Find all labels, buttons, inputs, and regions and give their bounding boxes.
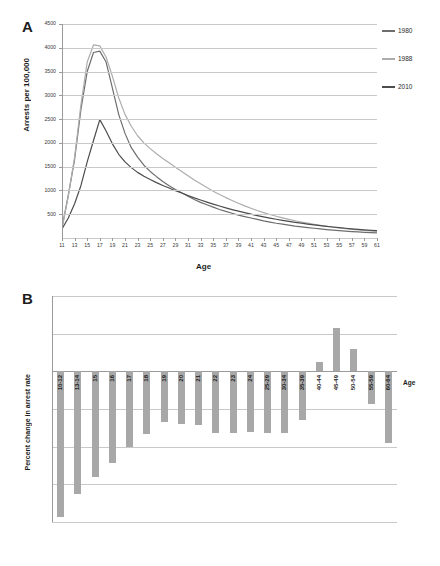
y-tick-mark — [59, 119, 62, 120]
y-tick-label: 4500 — [28, 21, 56, 26]
x-tick-mark — [150, 238, 151, 241]
bar-category-label: 25-29 — [264, 375, 270, 390]
y-tick-label: 3000 — [28, 93, 56, 98]
bar-category-label: 55-59 — [368, 375, 374, 390]
panel-a: A Arrests per 100,000 Age 50010001500200… — [0, 0, 440, 282]
bar-category-label: 23 — [230, 375, 236, 382]
bar-category-label: 19 — [161, 375, 167, 382]
gridline — [52, 296, 397, 297]
x-tick-mark — [377, 238, 378, 241]
x-tick-mark — [339, 238, 340, 241]
x-tick-mark — [289, 238, 290, 241]
x-tick-mark — [87, 238, 88, 241]
gridline — [52, 334, 397, 335]
x-tick-mark — [238, 238, 239, 241]
panel-b-plot-area: 10-1213-141516171819202122232425-2930-34… — [52, 296, 397, 522]
gridline — [62, 143, 377, 144]
bar-category-label: 30-34 — [281, 375, 287, 390]
legend-label: 1980 — [398, 28, 412, 35]
x-tick-mark — [327, 238, 328, 241]
x-tick-mark — [364, 238, 365, 241]
panel-b-y-axis-line — [52, 296, 53, 522]
bar-category-label: 17 — [126, 375, 132, 382]
x-tick-mark — [62, 238, 63, 241]
x-tick-mark — [175, 238, 176, 241]
y-tick-mark — [59, 48, 62, 49]
x-tick-mark — [301, 238, 302, 241]
panel-b-age-label: Age — [403, 379, 415, 386]
y-tick-mark — [59, 95, 62, 96]
y-tick-mark — [59, 143, 62, 144]
y-tick-label: 3500 — [28, 69, 56, 74]
panel-b-letter: B — [22, 290, 33, 307]
y-tick-label: 1000 — [28, 188, 56, 193]
gridline — [62, 238, 377, 239]
x-tick-mark — [112, 238, 113, 241]
panel-a-y-axis-line — [62, 24, 63, 238]
gridline — [52, 447, 397, 448]
bar-category-label: 10-12 — [57, 375, 63, 390]
panel-a-plot-area — [62, 24, 377, 238]
bar — [92, 371, 99, 476]
x-tick-mark — [163, 238, 164, 241]
gridline — [62, 119, 377, 120]
bar-category-label: 20 — [178, 375, 184, 382]
gridline — [62, 24, 377, 25]
bar — [316, 362, 323, 371]
bar-category-label: 15 — [92, 375, 98, 382]
x-tick-mark — [264, 238, 265, 241]
y-tick-label: 2500 — [28, 117, 56, 122]
x-tick-mark — [276, 238, 277, 241]
legend-item-1988: 1988 — [382, 56, 412, 63]
bar-category-label: 16 — [109, 375, 115, 382]
bar-category-label: 24 — [247, 375, 253, 382]
x-tick-mark — [251, 238, 252, 241]
x-tick-mark — [226, 238, 227, 241]
legend-item-1980: 1980 — [382, 28, 412, 35]
gridline — [52, 484, 397, 485]
bar — [126, 371, 133, 446]
bar-category-label: 35-39 — [299, 375, 305, 390]
y-tick-label: 1500 — [28, 164, 56, 169]
bar-category-label: 18 — [143, 375, 149, 382]
gridline — [62, 48, 377, 49]
gridline — [52, 409, 397, 410]
zero-line — [52, 371, 397, 372]
bar — [350, 349, 357, 372]
legend-swatch-icon — [382, 58, 395, 60]
panel-b: B Percent change in arrest rate Age 10-1… — [0, 282, 440, 566]
x-tick-mark — [352, 238, 353, 241]
x-tick-mark — [100, 238, 101, 241]
gridline — [62, 190, 377, 191]
y-tick-mark — [59, 167, 62, 168]
x-tick-mark — [213, 238, 214, 241]
bar — [109, 371, 116, 462]
x-tick-mark — [138, 238, 139, 241]
y-tick-mark — [59, 214, 62, 215]
legend-swatch-icon — [382, 86, 395, 88]
y-tick-label: 4000 — [28, 45, 56, 50]
legend-item-2010: 2010 — [382, 84, 412, 91]
gridline — [62, 167, 377, 168]
y-tick-label: 500 — [28, 212, 56, 217]
figure-root: A Arrests per 100,000 Age 50010001500200… — [0, 0, 440, 566]
panel-a-x-axis-title: Age — [196, 262, 211, 271]
bar-category-label: 50-54 — [350, 375, 356, 390]
y-tick-mark — [59, 24, 62, 25]
bar-category-label: 22 — [212, 375, 218, 382]
gridline — [62, 214, 377, 215]
panel-a-series-group — [62, 24, 377, 238]
gridline — [62, 95, 377, 96]
y-tick-mark — [59, 72, 62, 73]
bar-category-label: 45-49 — [333, 375, 339, 390]
legend-label: 1988 — [398, 56, 412, 63]
panel-b-y-axis-title: Percent change in arrest rate — [24, 374, 31, 471]
bar-category-label: 40-44 — [316, 375, 322, 390]
legend-label: 2010 — [398, 84, 412, 91]
y-tick-mark — [59, 190, 62, 191]
bar-category-label: 13-14 — [74, 375, 80, 390]
gridline — [62, 72, 377, 73]
bar — [57, 371, 64, 517]
bar-category-label: 21 — [195, 375, 201, 382]
x-tick-mark — [125, 238, 126, 241]
